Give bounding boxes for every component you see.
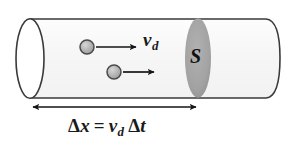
equation-v-subscript: d	[118, 124, 125, 139]
drift-velocity-figure: vd S Δx=vdΔt	[0, 0, 295, 146]
equation-equals: =	[94, 115, 105, 136]
cross-section-label: S	[190, 46, 201, 66]
equation-x: x	[80, 115, 90, 136]
cylinder-left-cap	[16, 19, 44, 99]
equation-delta-x-delta: Δ	[68, 115, 80, 136]
drift-velocity-subscript: d	[152, 38, 159, 53]
equation-delta-t-delta: Δ	[128, 115, 140, 136]
electron-upper	[80, 40, 94, 54]
figure-canvas	[0, 0, 295, 146]
electron-lower	[107, 65, 121, 79]
equation-t: t	[140, 115, 145, 136]
drift-velocity-symbol: v	[143, 29, 151, 50]
equation-v: v	[109, 115, 118, 136]
drift-velocity-label: vd	[143, 30, 158, 52]
displacement-equation: Δx=vdΔt	[68, 116, 146, 138]
